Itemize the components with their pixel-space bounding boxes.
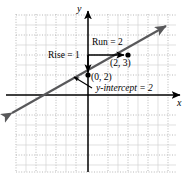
point-label-upper: (2, 3) — [110, 59, 131, 69]
plotted-line — [12, 26, 166, 113]
graph-figure: y x Run = 2 Rise = 1 (2, 3) (0, 2) y-int… — [0, 0, 191, 180]
point-marker-intercept — [85, 72, 90, 77]
run-label: Run = 2 — [92, 38, 123, 48]
y-axis-label: y — [77, 4, 81, 14]
y-intercept-label: y-intercept = 2 — [96, 84, 153, 94]
rise-label: Rise = 1 — [48, 51, 80, 61]
x-axis-label: x — [177, 98, 181, 108]
y-intercept-pointer — [74, 77, 92, 88]
point-marker-upper — [125, 52, 130, 57]
point-label-intercept: (0, 2) — [91, 73, 112, 83]
